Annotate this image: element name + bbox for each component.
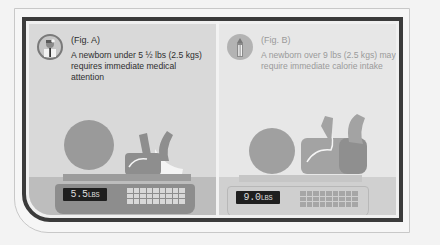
baby-bottle-icon [227,34,253,60]
scale-keypad [127,188,185,204]
scale: 5.5LBS [55,184,195,214]
scale-unit: LBS [261,194,273,202]
infographic-frame: (Fig. A) A newborn under 5 ½ lbs (2.5 kg… [22,17,403,222]
doctor-icon [37,34,63,60]
scale-display: 5.5LBS [63,188,107,201]
baby-head [249,128,295,174]
figure-label: (Fig. A) [71,35,100,45]
figure-label: (Fig. B) [261,35,291,45]
figure-a-panel: (Fig. A) A newborn under 5 ½ lbs (2.5 kg… [29,24,216,215]
figure-b-panel: (Fig. B) A newborn over 9 lbs (2.5 kgs) … [219,24,396,215]
scale-platform [239,175,362,182]
scale-unit: LBS [88,191,100,199]
baby-head [64,120,114,170]
scale: 9.0LBS [227,186,369,215]
figure-description: A newborn under 5 ½ lbs (2.5 kgs) requir… [71,50,211,83]
scale-reading: 9.0 [244,192,261,203]
scale-reading: 5.5 [71,189,88,200]
figure-description: A newborn over 9 lbs (2.5 kgs) may requi… [261,50,396,72]
scale-display: 9.0LBS [236,191,280,204]
scale-platform [63,174,191,181]
baby-body [299,112,379,176]
scale-keypad [300,191,358,207]
baby-body [121,127,191,177]
